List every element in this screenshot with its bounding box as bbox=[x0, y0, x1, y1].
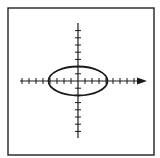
ellipse-diagram bbox=[0, 0, 160, 158]
background bbox=[0, 0, 160, 158]
